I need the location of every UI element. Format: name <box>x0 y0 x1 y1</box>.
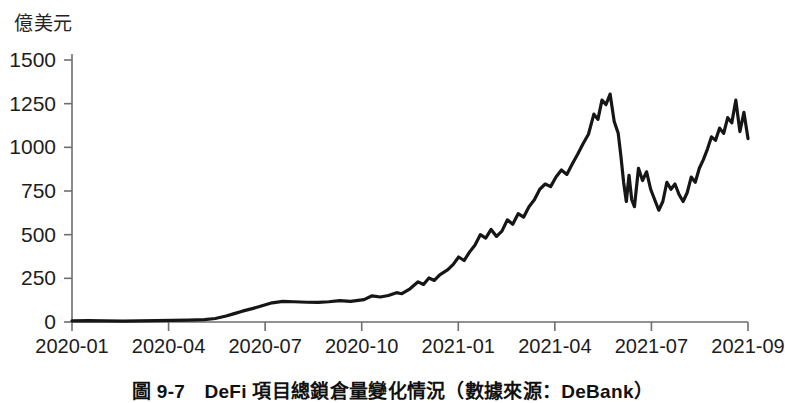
x-tick-label: 2021-01 <box>422 335 495 357</box>
x-axis-tick-labels: 2020-012020-042020-072020-102021-012021-… <box>35 335 784 357</box>
x-tick-label: 2021-04 <box>518 335 591 357</box>
x-axis-tick-marks <box>72 322 748 331</box>
series-line-tvl <box>72 94 748 321</box>
y-axis-tick-labels: 0250500750100012501500 <box>9 48 56 333</box>
line-chart: 0250500750100012501500 2020-012020-04202… <box>0 0 785 375</box>
y-tick-label: 1000 <box>9 135 56 158</box>
x-tick-label: 2020-07 <box>228 335 301 357</box>
x-tick-label: 2020-01 <box>35 335 108 357</box>
y-tick-label: 250 <box>21 266 56 289</box>
y-tick-label: 500 <box>21 223 56 246</box>
y-tick-label: 750 <box>21 179 56 202</box>
y-tick-label: 1500 <box>9 48 56 71</box>
x-tick-label: 2021-07 <box>615 335 688 357</box>
figure-caption: 圖 9-7 DeFi 項目總鎖倉量變化情況（數據來源：DeBank） <box>0 376 785 403</box>
y-axis-tick-marks <box>64 60 72 322</box>
y-tick-label: 1250 <box>9 92 56 115</box>
x-tick-label: 2020-04 <box>132 335 205 357</box>
x-tick-label: 2021-09 <box>711 335 784 357</box>
y-tick-label: 0 <box>44 310 56 333</box>
y-axis-unit-label: 億美元 <box>14 8 73 35</box>
x-tick-label: 2020-10 <box>325 335 398 357</box>
